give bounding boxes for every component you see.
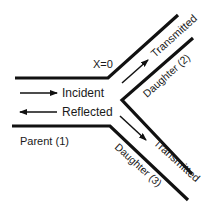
branching-channel-diagram: X=0 Incident Reflected Parent (1) Transm…: [0, 0, 214, 216]
reflected-label: Reflected: [62, 105, 113, 119]
parent-label: Parent (1): [20, 135, 69, 147]
incident-label: Incident: [62, 86, 105, 100]
junction-label: X=0: [93, 58, 113, 70]
